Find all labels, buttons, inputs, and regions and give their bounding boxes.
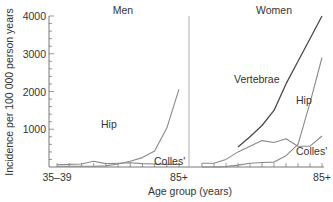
x-tick-label: 85+	[170, 171, 188, 183]
y-tick-label: 2000	[23, 86, 47, 98]
x-tick-label: 85+	[313, 171, 331, 183]
y-axis-label: Incidence per 100 000 person years	[3, 8, 15, 176]
series-label: Hip	[101, 118, 117, 130]
y-tick-label: 3000	[23, 48, 47, 60]
series-label: Colles'	[154, 155, 185, 167]
fracture-incidence-chart: Incidence per 100 000 person years Age g…	[0, 0, 333, 202]
series-lines	[57, 16, 322, 167]
series-labels: HipColles'VertebraeHipColles'	[101, 73, 327, 167]
series-label: Vertebrae	[234, 73, 280, 85]
series-label: Hip	[296, 94, 312, 106]
x-tick-label: 35–39	[42, 171, 71, 183]
x-axis-label: Age group (years)	[148, 185, 232, 197]
panel-title-women: Women	[256, 4, 292, 16]
y-tick-label: 4000	[23, 10, 47, 22]
series-label: Colles'	[296, 145, 327, 157]
panel-title-men: Men	[113, 4, 134, 16]
y-tick-label: 1000	[23, 123, 47, 135]
